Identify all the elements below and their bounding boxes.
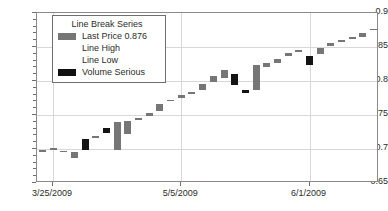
legend-item[interactable]: Line Low — [53, 54, 165, 66]
price-bar[interactable] — [338, 40, 345, 42]
y-axis-tick-mark — [32, 182, 36, 183]
price-bar[interactable] — [295, 50, 302, 52]
price-bar[interactable] — [167, 100, 174, 102]
legend[interactable]: Line Break Series Last Price 0.876Line H… — [52, 15, 166, 83]
x-axis-tick-label: 3/25/2009 — [22, 188, 82, 198]
price-bar[interactable] — [103, 128, 110, 133]
price-bar[interactable] — [274, 59, 281, 63]
legend-swatch-icon — [58, 69, 76, 76]
price-bar[interactable] — [359, 33, 366, 37]
gridline-horizontal — [37, 115, 377, 116]
price-bar[interactable] — [306, 56, 313, 66]
legend-swatch-icon — [58, 57, 76, 64]
x-axis-tick-mark — [180, 182, 181, 186]
legend-title: Line Break Series — [53, 19, 165, 30]
legend-item-label: Last Price 0.876 — [82, 31, 147, 42]
x-axis-tick-label: 6/1/2009 — [279, 188, 339, 198]
price-bar[interactable] — [221, 70, 228, 78]
price-bar[interactable] — [242, 90, 249, 93]
price-bar[interactable] — [146, 113, 153, 116]
price-bar[interactable] — [71, 152, 78, 158]
legend-item[interactable]: Last Price 0.876 — [53, 30, 165, 42]
price-bar[interactable] — [327, 43, 334, 45]
price-bar[interactable] — [253, 65, 260, 90]
price-bar[interactable] — [263, 63, 270, 67]
legend-swatch-icon — [58, 33, 76, 40]
price-bar[interactable] — [124, 121, 131, 133]
line-break-chart: 0.650.70.750.80.850.9 3/25/20095/5/20096… — [0, 0, 388, 211]
price-bar[interactable] — [285, 53, 292, 56]
price-bar[interactable] — [82, 139, 89, 149]
x-axis-tick-label: 5/5/2009 — [150, 188, 210, 198]
legend-item-label: Line Low — [82, 55, 118, 66]
legend-item[interactable]: Volume Serious — [53, 66, 165, 78]
price-bar[interactable] — [199, 84, 206, 90]
price-bar[interactable] — [317, 48, 324, 54]
legend-item-label: Line High — [82, 43, 120, 54]
price-bar[interactable] — [135, 118, 142, 121]
price-bar[interactable] — [92, 136, 99, 138]
price-bar[interactable] — [349, 37, 356, 39]
x-axis-tick-mark — [309, 182, 310, 186]
price-bar[interactable] — [188, 92, 195, 94]
price-bar[interactable] — [39, 150, 46, 152]
legend-item[interactable]: Line High — [53, 42, 165, 54]
price-bar[interactable] — [210, 76, 217, 82]
price-bar[interactable] — [370, 29, 377, 31]
legend-rows: Last Price 0.876Line HighLine LowVolume … — [53, 30, 165, 78]
price-bar[interactable] — [114, 122, 121, 150]
gridline-vertical — [310, 13, 311, 181]
x-axis-tick-mark — [52, 182, 53, 186]
price-bar[interactable] — [50, 148, 57, 150]
price-bar[interactable] — [178, 95, 185, 97]
legend-swatch-icon — [58, 45, 76, 52]
price-bar[interactable] — [60, 151, 67, 153]
price-bar[interactable] — [231, 74, 238, 86]
price-bar[interactable] — [156, 104, 163, 111]
legend-item-label: Volume Serious — [82, 67, 145, 78]
